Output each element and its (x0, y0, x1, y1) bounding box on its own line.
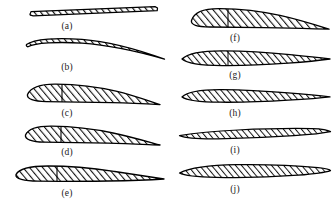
airfoil-shape-b (24, 37, 168, 63)
airfoil-panel-g (180, 48, 332, 70)
airfoil-shape-h (180, 87, 332, 107)
airfoil-shape-e (12, 163, 168, 187)
airfoil-shape-g (180, 48, 332, 70)
airfoil-caption-h: (h) (212, 108, 258, 118)
airfoil-caption-f: (f) (212, 33, 258, 43)
airfoil-caption-i: (i) (212, 145, 258, 155)
airfoil-panel-e (12, 163, 168, 187)
airfoil-caption-c: (c) (44, 108, 90, 118)
airfoil-panel-f (182, 6, 332, 36)
airfoil-figure: (a) (b) (c) (0, 0, 332, 214)
airfoil-shape-j (178, 162, 332, 182)
airfoil-caption-j: (j) (212, 184, 258, 194)
airfoil-panel-h (180, 87, 332, 107)
airfoil-caption-e: (e) (44, 188, 90, 198)
airfoil-shape-i (178, 126, 332, 144)
airfoil-panel-b (24, 37, 168, 63)
airfoil-caption-a: (a) (44, 21, 90, 31)
airfoil-caption-d: (d) (44, 147, 90, 157)
airfoil-panel-a (28, 5, 160, 19)
airfoil-caption-g: (g) (212, 70, 258, 80)
airfoil-caption-b: (b) (44, 62, 90, 72)
airfoil-panel-j (178, 162, 332, 182)
airfoil-panel-i (178, 126, 332, 144)
airfoil-shape-f (182, 6, 332, 36)
airfoil-shape-a (28, 5, 160, 19)
